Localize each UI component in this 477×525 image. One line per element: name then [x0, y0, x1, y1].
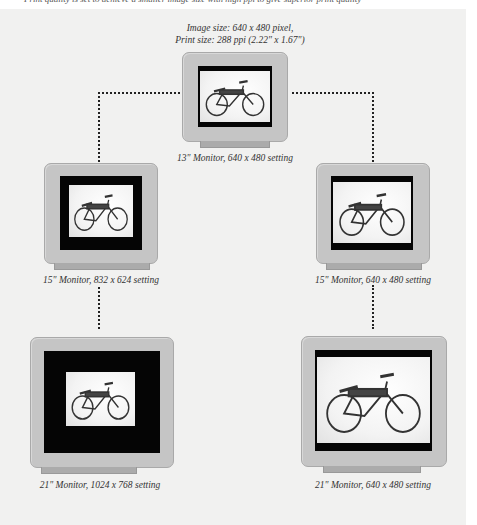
monitor-caption: 21" Monitor, 1024 x 768 setting: [20, 479, 180, 491]
bicycle-image-icon: [69, 185, 133, 237]
bicycle-image-icon: [66, 372, 135, 426]
monitor-15in-832x624: [44, 163, 158, 279]
connector-top-right-vertical: [372, 92, 374, 162]
connector-right-lower-vertical: [372, 285, 374, 329]
image-size-line: Image size: 640 x 480 pixel,: [150, 22, 330, 34]
diagram-panel: Image size: 640 x 480 pixel, Print size:…: [0, 9, 466, 525]
monitor-caption: 21" Monitor, 640 x 480 setting: [293, 479, 453, 491]
monitor-stand: [326, 263, 422, 270]
image-size-caption: Image size: 640 x 480 pixel, Print size:…: [150, 22, 330, 46]
monitor-stand: [41, 467, 137, 474]
connector-top-left-horizontal: [98, 92, 180, 94]
monitor-stand: [54, 263, 150, 270]
monitor-21in-640x480: [301, 336, 447, 482]
bicycle-image-icon: [317, 357, 430, 443]
connector-left-lower-vertical: [98, 287, 100, 329]
monitor-stand: [200, 141, 270, 148]
monitor-13in-640x480: [182, 52, 288, 158]
print-size-line: Print size: 288 ppi (2.22" x 1.67"): [150, 34, 330, 46]
monitor-stand: [323, 466, 421, 473]
monitor-caption: 15" Monitor, 832 x 624 setting: [26, 274, 176, 286]
bicycle-image-icon: [200, 71, 270, 122]
monitor-caption: 15" Monitor, 640 x 480 setting: [298, 274, 448, 286]
monitor-21in-1024x768: [30, 337, 174, 483]
connector-top-right-horizontal: [292, 92, 374, 94]
monitor-caption: 13" Monitor, 640 x 480 setting: [160, 152, 310, 164]
bicycle-image-icon: [333, 182, 411, 243]
monitor-15in-640x480: [316, 163, 430, 279]
cutoff-body-text: Print quality is set to achieve a smalle…: [24, 0, 464, 4]
connector-top-left-vertical: [98, 92, 100, 162]
